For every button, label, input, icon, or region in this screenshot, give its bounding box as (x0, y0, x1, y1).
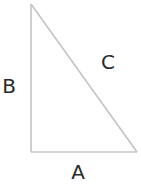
side-b-label: B (2, 76, 16, 96)
side-a-label: A (71, 162, 85, 182)
side-c-label: C (101, 52, 115, 72)
right-triangle-diagram (0, 0, 141, 186)
side-c-hypotenuse-line (31, 4, 137, 152)
